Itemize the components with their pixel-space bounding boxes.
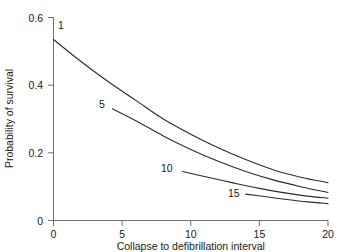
y-tick-label-2: 0.4 (28, 79, 43, 91)
curve-1 (54, 39, 329, 182)
x-axis-ticks (54, 221, 329, 227)
curve-label-5: 5 (99, 98, 105, 110)
curve-label-15: 15 (228, 187, 240, 199)
x-tick-label-2: 10 (185, 228, 197, 240)
survival-probability-chart: 0.6 0.4 0.2 0 0 5 10 15 20 Collapse to d… (0, 0, 344, 252)
x-tick-label-4: 20 (322, 228, 334, 240)
curve-10 (183, 171, 328, 198)
y-axis-ticks (48, 18, 54, 221)
x-axis-tick-labels: 0 5 10 15 20 (51, 228, 334, 240)
y-axis-title: Probability of survival (3, 69, 15, 168)
x-axis-title: Collapse to defibrillation interval (117, 240, 265, 252)
y-tick-label-0: 0 (37, 215, 43, 227)
y-axis-tick-labels: 0.6 0.4 0.2 0 (28, 12, 43, 227)
y-tick-label-3: 0.6 (28, 12, 43, 24)
y-tick-label-1: 0.2 (28, 147, 43, 159)
x-tick-label-0: 0 (51, 228, 57, 240)
curve-15 (246, 194, 328, 203)
chart-plot-area: 0.6 0.4 0.2 0 0 5 10 15 20 Collapse to d… (0, 0, 344, 252)
data-curves-group (54, 39, 329, 203)
x-tick-label-3: 15 (254, 228, 266, 240)
curve-label-10: 10 (161, 162, 173, 174)
x-tick-label-1: 5 (119, 228, 125, 240)
curve-label-1: 1 (58, 19, 64, 31)
